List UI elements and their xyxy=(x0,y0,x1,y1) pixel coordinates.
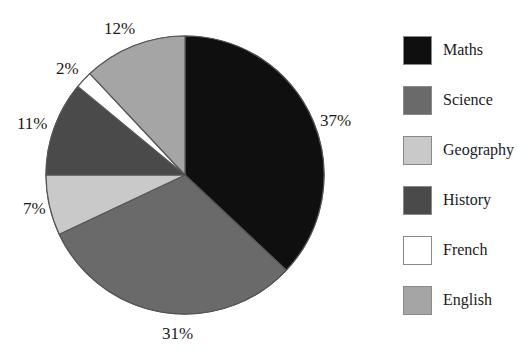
legend-swatch-geography xyxy=(403,136,432,165)
legend-item-french[interactable]: French xyxy=(401,230,517,280)
legend-swatch-english xyxy=(403,286,432,315)
legend-swatch-science xyxy=(403,86,432,115)
legend-item-maths[interactable]: Maths xyxy=(401,30,517,80)
legend-item-english[interactable]: English xyxy=(401,280,517,330)
legend-item-history[interactable]: History xyxy=(401,180,517,230)
legend-item-science[interactable]: Science xyxy=(401,80,517,130)
legend-label-science: Science xyxy=(443,90,493,109)
legend-label-geography: Geography xyxy=(443,140,514,159)
slice-label-french: 2% xyxy=(56,60,79,77)
pie-slices-group xyxy=(46,36,324,314)
legend-label-maths: Maths xyxy=(443,40,483,59)
slice-label-geography: 7% xyxy=(23,200,46,217)
legend-swatch-french xyxy=(403,236,432,265)
slice-label-science: 31% xyxy=(162,325,193,342)
legend-label-history: History xyxy=(443,190,491,209)
legend-item-geography[interactable]: Geography xyxy=(401,130,517,180)
pie-chart-graphic xyxy=(45,35,325,315)
legend-swatch-history xyxy=(403,186,432,215)
slice-label-history: 11% xyxy=(17,115,48,132)
legend-label-french: French xyxy=(443,240,487,259)
slice-label-english: 12% xyxy=(104,20,135,37)
chart-legend: MathsScienceGeographyHistoryFrenchEnglis… xyxy=(401,30,517,330)
legend-label-english: English xyxy=(443,290,492,309)
pie-chart-page: 37% 31% 7% 11% 2% 12% MathsScienceGeogra… xyxy=(0,0,517,350)
slice-label-maths: 37% xyxy=(320,112,351,129)
pie-chart-area: 37% 31% 7% 11% 2% 12% xyxy=(0,0,390,350)
legend-swatch-maths xyxy=(403,36,432,65)
